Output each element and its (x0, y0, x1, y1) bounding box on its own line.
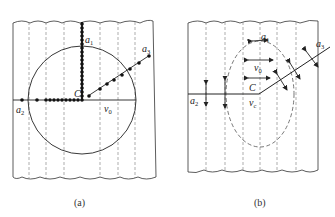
caption-a: (a) (74, 197, 85, 209)
figure-canvas: a1 a3 a2 C v0 (a) (0, 0, 335, 217)
label-v0: v0 (104, 103, 112, 115)
label-a1: a1 (85, 34, 93, 46)
caption-b: (b) (254, 197, 266, 209)
panel-b: a1 a3 a2 v0 C vc (b) (188, 20, 330, 209)
vibration-arrows-b (206, 40, 318, 108)
label-b-a3: a3 (316, 38, 324, 50)
label-a3: a3 (142, 43, 150, 55)
label-b-vc: vc (249, 97, 256, 109)
label-b-a1: a1 (261, 31, 269, 43)
label-b-a2: a2 (190, 95, 198, 107)
panel-a: a1 a3 a2 C v0 (a) (13, 20, 156, 209)
label-b-center-c: C (249, 82, 256, 93)
label-a2: a2 (16, 104, 24, 116)
label-center-c: C (74, 88, 81, 99)
label-b-v0: v0 (254, 62, 262, 74)
